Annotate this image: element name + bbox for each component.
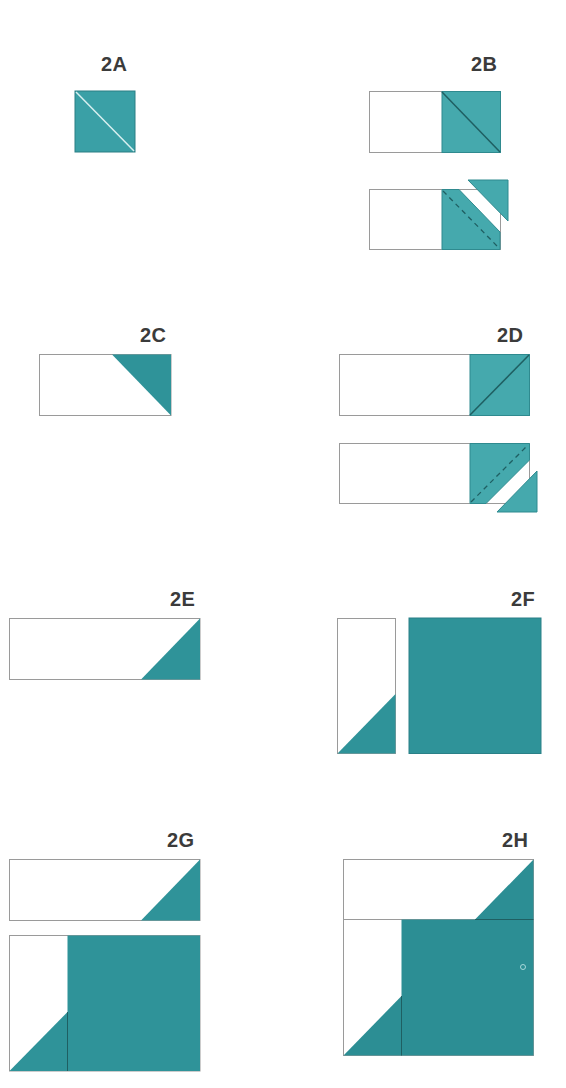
panel-2f-units (338, 618, 542, 754)
panel-2a-unit (75, 91, 135, 152)
panel-2b-sewn (370, 92, 501, 153)
panel-2b-trimmed (370, 180, 509, 250)
panel-2h-block (344, 860, 534, 1056)
quilt-diagram (0, 0, 566, 1088)
panel-2g-units (10, 860, 201, 1072)
panel-2d-trimmed (340, 444, 538, 513)
panel-2e-unit (10, 619, 201, 680)
panel-2c-unit (40, 355, 172, 416)
panel-2d-sewn (340, 355, 530, 416)
